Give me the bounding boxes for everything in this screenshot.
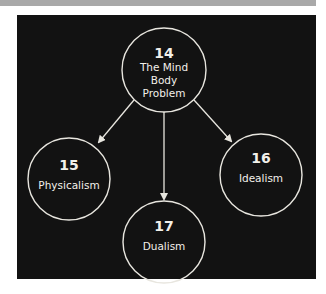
node-14-label-line-3: Problem (140, 87, 188, 100)
node-17: 17 Dualism (143, 218, 186, 253)
node-15-number: 15 (38, 157, 99, 173)
node-16-number: 16 (239, 150, 283, 166)
arrow-14-to-16 (194, 100, 231, 141)
node-16: 16 Idealism (239, 150, 283, 185)
page: 14 The Mind Body Problem 15 Physicalism … (0, 0, 326, 294)
node-14-label-line-2: Body (140, 74, 188, 87)
node-17-label: Dualism (143, 240, 186, 253)
node-16-label: Idealism (239, 172, 283, 185)
node-15: 15 Physicalism (38, 157, 99, 192)
node-17-number: 17 (143, 218, 186, 234)
node-15-label: Physicalism (38, 179, 99, 192)
node-14: 14 The Mind Body Problem (140, 45, 188, 100)
node-14-number: 14 (140, 45, 188, 61)
arrow-14-to-15 (99, 100, 134, 142)
node-14-label-line-1: The Mind (140, 61, 188, 74)
